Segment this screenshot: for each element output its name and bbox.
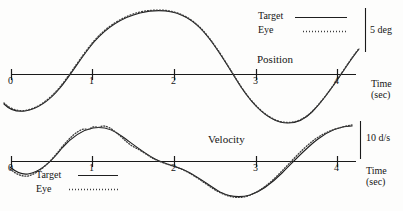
velocity-tick-label-3: 3 xyxy=(253,163,258,174)
position-panel-label: Position xyxy=(257,54,293,66)
position-legend-target-label: Target xyxy=(258,11,283,22)
position-eye-trace xyxy=(4,10,359,122)
position-tick-label-1: 1 xyxy=(89,76,94,87)
velocity-panel-label: Velocity xyxy=(208,134,245,146)
velocity-tick-label-2: 2 xyxy=(171,163,176,174)
position-axis-title-line2: (sec) xyxy=(371,90,392,101)
position-tick-label-0: 0 xyxy=(8,76,13,87)
position-tick-label-4: 4 xyxy=(334,76,339,87)
velocity-axis-title-line2: (sec) xyxy=(366,177,387,188)
position-panel xyxy=(4,8,366,123)
velocity-panel xyxy=(10,121,361,197)
velocity-tick-label-1: 1 xyxy=(89,163,94,174)
eye-tracking-figure: 0 1 2 3 4 Position Target Eye 5 deg Time… xyxy=(0,0,403,211)
position-axis-title-line1: Time xyxy=(371,78,392,89)
velocity-legend-target-label: Target xyxy=(36,170,61,181)
position-scale-label: 5 deg xyxy=(370,25,392,36)
position-legend-eye-label: Eye xyxy=(258,25,274,36)
velocity-tick-label-4: 4 xyxy=(334,163,339,174)
velocity-tick-label-0: 0 xyxy=(8,163,13,174)
velocity-axis-title: Time (sec) xyxy=(366,166,387,187)
position-tick-label-3: 3 xyxy=(253,76,258,87)
velocity-legend-eye-label: Eye xyxy=(36,184,52,195)
position-axis-title: Time (sec) xyxy=(371,79,392,100)
position-target-trace xyxy=(4,11,359,123)
velocity-scale-label: 10 d/s xyxy=(366,133,390,144)
velocity-axis-title-line1: Time xyxy=(366,165,387,176)
position-tick-label-2: 2 xyxy=(171,76,176,87)
